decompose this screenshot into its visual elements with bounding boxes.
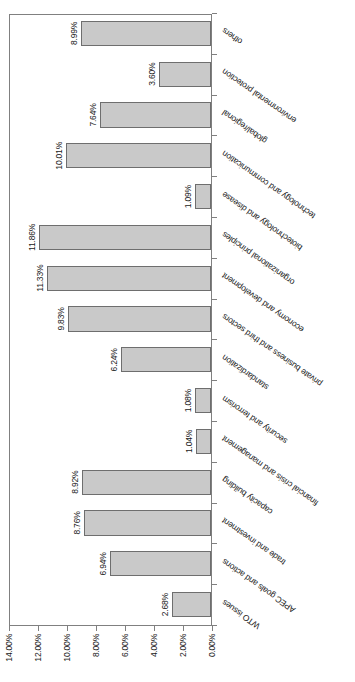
category-axis-tick: [212, 95, 217, 96]
category-axis-tick: [212, 503, 217, 504]
bar-value-label: 2.68%: [160, 593, 170, 616]
category-axis-label-text: global/regional: [220, 108, 269, 146]
bar-value-label: 6.94%: [98, 552, 108, 575]
value-axis-tick: [96, 626, 97, 631]
category-axis-tick: [212, 584, 217, 585]
category-axis-tick: [212, 543, 217, 544]
category-axis-tick: [212, 462, 217, 463]
bar-value-label: 8.76%: [72, 511, 82, 534]
category-axis-tick: [212, 176, 217, 177]
category-axis-tick: [212, 217, 217, 218]
bar-value-label: 11.33%: [35, 265, 45, 292]
chart-rotation-wrapper: 0.00%2.00%4.00%6.00%8.00%10.00%12.00%14.…: [0, 0, 355, 682]
category-axis-tick: [212, 339, 217, 340]
category-axis-tick: [212, 380, 217, 381]
value-axis-tick-label: 14.00%: [4, 634, 14, 662]
category-axis-label-text: private business and third sectors: [220, 312, 324, 389]
value-axis-tick-label: 6.00%: [120, 634, 130, 657]
bar-value-label: 8.92%: [70, 471, 80, 494]
category-axis-tick: [212, 625, 217, 626]
category-axis-label-text: financial crisis and management: [220, 434, 320, 508]
bar-value-label: 11.86%: [27, 224, 37, 251]
category-axis-label-text: capacity building: [220, 475, 274, 517]
value-axis-tick-label: 10.00%: [62, 634, 72, 662]
bar-value-label: 6.24%: [109, 348, 119, 371]
category-axis-label-text: WTO issues: [220, 597, 262, 631]
value-axis-tick: [9, 626, 10, 631]
value-axis: 0.00%2.00%4.00%6.00%8.00%10.00%12.00%14.…: [9, 626, 212, 682]
value-axis-tick: [67, 626, 68, 631]
value-axis-tick: [154, 626, 155, 631]
category-axis-tick: [212, 54, 217, 55]
value-axis-tick-label: 4.00%: [149, 634, 159, 657]
value-axis-tick-label: 12.00%: [33, 634, 43, 662]
value-axis-tick: [38, 626, 39, 631]
category-axis-label-text: standardization: [220, 353, 271, 393]
bar-chart-figure: 0.00%2.00%4.00%6.00%8.00%10.00%12.00%14.…: [0, 0, 355, 682]
category-axis-tick: [212, 421, 217, 422]
category-axis-label-text: technology and communication: [220, 149, 317, 221]
value-axis-tick: [125, 626, 126, 631]
category-axis-tick: [212, 135, 217, 136]
bar-value-label: 10.01%: [54, 142, 64, 170]
value-axis-tick: [183, 626, 184, 631]
category-axis-label-text: others: [220, 26, 244, 47]
value-axis-tick-label: 0.00%: [207, 634, 217, 657]
bar-value-label: 9.83%: [56, 307, 66, 330]
bar-value-label: 3.60%: [147, 63, 157, 86]
bar-group: 2.68%: [8, 592, 211, 617]
category-axis-tick: [212, 299, 217, 300]
value-axis-tick-label: 8.00%: [91, 634, 101, 657]
value-axis-tick-label: 2.00%: [178, 634, 188, 657]
value-axis-tick: [212, 626, 213, 631]
bar[interactable]: [110, 551, 211, 576]
category-axis: WTO issuesAPEC goals and actionstrade an…: [212, 14, 352, 626]
bar-value-label: 8.99%: [69, 22, 79, 45]
bar-value-label: 7.64%: [88, 103, 98, 126]
bar-group: 6.94%: [8, 551, 211, 576]
category-axis-tick: [212, 13, 217, 14]
category-axis-tick: [212, 258, 217, 259]
